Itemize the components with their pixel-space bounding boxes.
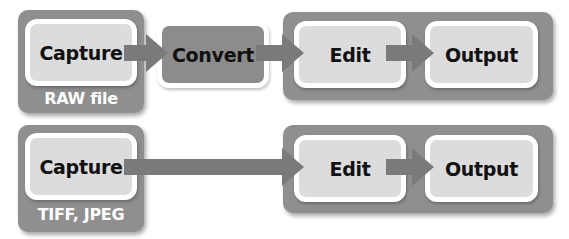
arrow-edit-to-output-icon [0, 0, 569, 239]
